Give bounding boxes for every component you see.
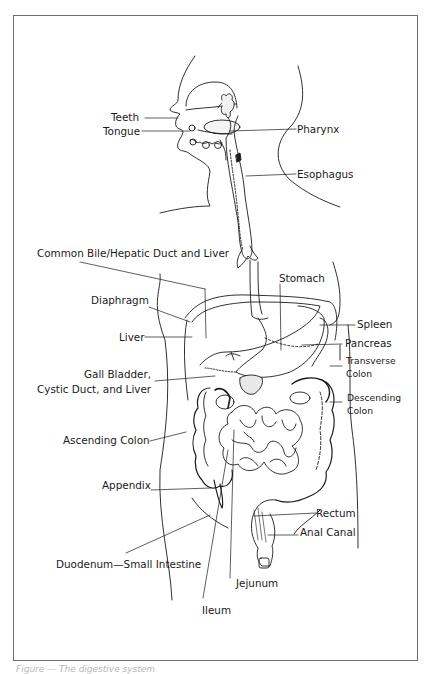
label-descending-colon: Descending Colon bbox=[347, 392, 401, 417]
label-rectum: Rectum bbox=[316, 507, 356, 519]
label-transverse-colon: Transverse Colon bbox=[346, 355, 396, 380]
stomach bbox=[205, 306, 324, 377]
label-teeth: Teeth bbox=[111, 111, 139, 123]
esophagus-tube bbox=[226, 116, 268, 319]
label-gall-bladder-line2: Cystic Duct, and Liver bbox=[37, 383, 151, 395]
label-descending-line1: Descending bbox=[347, 392, 401, 405]
label-tongue: Tongue bbox=[103, 125, 140, 137]
label-ileum: Ileum bbox=[202, 604, 231, 616]
label-descending-line2: Colon bbox=[347, 405, 401, 418]
label-common-bile-duct: Common Bile/Hepatic Duct and Liver bbox=[37, 247, 229, 259]
label-ascending-colon: Ascending Colon bbox=[63, 434, 150, 446]
small-intestine bbox=[219, 405, 302, 474]
label-pancreas: Pancreas bbox=[345, 337, 392, 349]
label-liver: Liver bbox=[119, 331, 145, 343]
label-stomach: Stomach bbox=[279, 272, 325, 284]
label-duodenum-small-intestine: Duodenum—Small Intestine bbox=[56, 558, 201, 570]
label-diaphragm: Diaphragm bbox=[91, 294, 149, 306]
label-anal-canal: Anal Canal bbox=[300, 526, 356, 538]
rectum-anal-canal bbox=[251, 500, 276, 568]
appendix-shape bbox=[214, 480, 223, 508]
label-jejunum: Jejunum bbox=[236, 577, 278, 589]
figure-caption: Figure — The digestive system bbox=[16, 664, 155, 674]
label-pharynx: Pharynx bbox=[297, 123, 339, 135]
label-transverse-line2: Colon bbox=[346, 368, 396, 381]
label-spleen: Spleen bbox=[357, 318, 392, 330]
label-gall-bladder-line1: Gall Bladder, bbox=[84, 368, 151, 380]
pancreas-spleen bbox=[240, 318, 328, 394]
label-esophagus: Esophagus bbox=[297, 168, 353, 180]
label-transverse-line1: Transverse bbox=[346, 355, 396, 368]
label-appendix: Appendix bbox=[102, 479, 151, 491]
